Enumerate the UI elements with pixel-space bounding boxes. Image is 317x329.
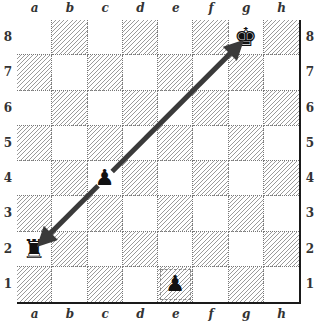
square-f7 [193, 55, 228, 90]
file-label-top-h: h [264, 1, 300, 15]
chess-board: ♚♟♜♟ [17, 20, 301, 304]
file-label-bottom-a: a [17, 307, 53, 321]
square-b7 [52, 55, 87, 90]
square-e1: ♟ [158, 267, 193, 302]
rank-label-left-5: 5 [1, 136, 15, 150]
rank-label-left-6: 6 [1, 101, 15, 115]
square-e6 [158, 91, 193, 126]
file-label-bottom-g: g [229, 307, 265, 321]
rank-label-right-1: 1 [303, 277, 317, 291]
file-label-top-b: b [52, 1, 88, 15]
square-a7 [17, 55, 52, 90]
square-g2 [229, 232, 264, 267]
rank-label-left-3: 3 [1, 206, 15, 220]
square-h1 [264, 267, 299, 302]
square-c1 [88, 267, 123, 302]
file-label-bottom-d: d [123, 307, 159, 321]
file-label-top-a: a [17, 1, 53, 15]
square-f6 [193, 91, 228, 126]
black-pawn-e1: ♟ [158, 267, 192, 302]
file-label-top-g: g [229, 1, 265, 15]
file-label-top-f: f [193, 1, 229, 15]
black-pawn-c4: ♟ [88, 161, 122, 195]
square-d2 [123, 232, 158, 267]
square-c4: ♟ [88, 161, 123, 196]
square-b4 [52, 161, 87, 196]
square-h7 [264, 55, 299, 90]
file-label-top-e: e [158, 1, 194, 15]
square-h6 [264, 91, 299, 126]
square-g7 [229, 55, 264, 90]
square-b3 [52, 196, 87, 231]
square-c8 [88, 20, 123, 55]
square-f2 [193, 232, 228, 267]
square-f5 [193, 126, 228, 161]
square-h4 [264, 161, 299, 196]
square-g1 [229, 267, 264, 302]
square-a6 [17, 91, 52, 126]
rank-label-left-8: 8 [1, 30, 15, 44]
square-d1 [123, 267, 158, 302]
square-f4 [193, 161, 228, 196]
square-h2 [264, 232, 299, 267]
square-g8: ♚ [229, 20, 264, 55]
rank-label-right-7: 7 [303, 65, 317, 79]
square-c7 [88, 55, 123, 90]
square-b2 [52, 232, 87, 267]
square-c2 [88, 232, 123, 267]
square-b8 [52, 20, 87, 55]
square-e5 [158, 126, 193, 161]
square-e3 [158, 196, 193, 231]
rank-label-right-3: 3 [303, 206, 317, 220]
square-h8 [264, 20, 299, 55]
square-g5 [229, 126, 264, 161]
square-d5 [123, 126, 158, 161]
file-label-bottom-e: e [158, 307, 194, 321]
square-a5 [17, 126, 52, 161]
rank-label-right-2: 2 [303, 242, 317, 256]
square-h5 [264, 126, 299, 161]
file-label-bottom-c: c [88, 307, 124, 321]
square-g4 [229, 161, 264, 196]
square-d4 [123, 161, 158, 196]
square-d6 [123, 91, 158, 126]
file-label-top-d: d [123, 1, 159, 15]
square-c6 [88, 91, 123, 126]
square-d7 [123, 55, 158, 90]
rank-label-right-8: 8 [303, 30, 317, 44]
rank-label-right-5: 5 [303, 136, 317, 150]
square-b6 [52, 91, 87, 126]
file-label-bottom-b: b [52, 307, 88, 321]
file-label-bottom-f: f [193, 307, 229, 321]
rank-label-right-6: 6 [303, 101, 317, 115]
square-e7 [158, 55, 193, 90]
rank-label-left-1: 1 [1, 277, 15, 291]
square-a2: ♜ [17, 232, 52, 267]
square-f1 [193, 267, 228, 302]
square-a1 [17, 267, 52, 302]
square-e4 [158, 161, 193, 196]
square-g3 [229, 196, 264, 231]
square-e2 [158, 232, 193, 267]
rank-label-left-7: 7 [1, 65, 15, 79]
square-f8 [193, 20, 228, 55]
square-a8 [17, 20, 52, 55]
square-c3 [88, 196, 123, 231]
rank-label-left-2: 2 [1, 242, 15, 256]
rank-label-left-4: 4 [1, 171, 15, 185]
square-e8 [158, 20, 193, 55]
file-label-bottom-h: h [264, 307, 300, 321]
square-h3 [264, 196, 299, 231]
square-a3 [17, 196, 52, 231]
square-b1 [52, 267, 87, 302]
square-a4 [17, 161, 52, 196]
square-d3 [123, 196, 158, 231]
square-g6 [229, 91, 264, 126]
file-label-top-c: c [88, 1, 124, 15]
rank-label-right-4: 4 [303, 171, 317, 185]
square-d8 [123, 20, 158, 55]
black-king-g8: ♚ [229, 20, 263, 54]
square-f3 [193, 196, 228, 231]
square-b5 [52, 126, 87, 161]
black-rook-a2: ♜ [17, 232, 51, 266]
